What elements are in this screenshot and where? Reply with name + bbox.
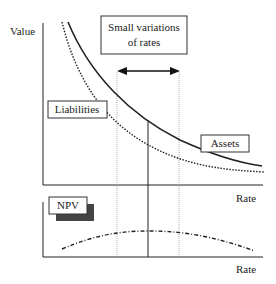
npv-label: NPV [57, 199, 79, 211]
npv-diagram: Value Rate Small variations of rates Lia… [0, 0, 276, 284]
assets-label: Assets [211, 137, 240, 149]
callout-line1: Small variations [108, 21, 180, 33]
callout-line2: of rates [128, 36, 161, 48]
liabilities-label: Liabilities [55, 103, 100, 115]
bottom-rate-axis-label: Rate [236, 263, 256, 275]
arrow-right-head-icon [170, 67, 180, 75]
npv-curve [62, 231, 255, 251]
value-axis-label: Value [10, 25, 35, 37]
top-rate-axis-label: Rate [236, 192, 256, 204]
arrow-left-head-icon [117, 67, 127, 75]
